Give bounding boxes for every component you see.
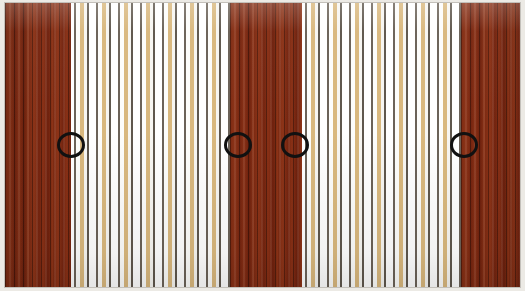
marker-1 [57, 132, 85, 158]
light-band-two [302, 3, 461, 287]
marker-3 [281, 132, 309, 158]
striped-panel-image [5, 3, 520, 287]
marker-4 [450, 132, 478, 158]
light-band-one [71, 3, 230, 287]
screenshot-stage [0, 0, 525, 291]
marker-2 [224, 132, 252, 158]
